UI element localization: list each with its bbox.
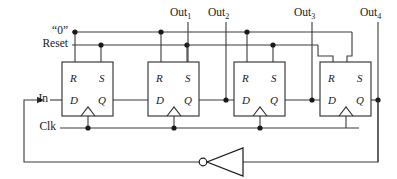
ff2-pin-label-q: Q: [184, 95, 192, 106]
ff1-pin-label-s: S: [99, 73, 105, 84]
output-label-out3-sub: 3: [311, 12, 315, 21]
junction-dot-reset-ff1: [98, 42, 103, 47]
output-label-out3-text: Out: [294, 6, 311, 18]
circuit-diagram: “0” Reset In Clk Out1 Out2 Out3 Out4 R S…: [0, 0, 397, 179]
ff2-pin-label-r: R: [156, 73, 163, 84]
ff4-pin-label-s: S: [357, 73, 363, 84]
output-label-out2-sub: 2: [225, 12, 229, 21]
junction-dot-clk-ff2: [171, 125, 176, 130]
ff3-pin-label-q: Q: [270, 95, 278, 106]
junction-dot-out2: [223, 97, 228, 102]
ff4-pin-label-r: R: [328, 73, 335, 84]
output-label-out4: Out4: [360, 7, 381, 21]
ff3-pin-label-r: R: [242, 73, 249, 84]
output-label-out1: Out1: [170, 7, 191, 21]
ff2-pin-label-d: D: [156, 95, 164, 106]
bus-label-reset: Reset: [14, 38, 68, 50]
output-label-out1-sub: 1: [187, 12, 191, 21]
ff1-pin-label-d: D: [70, 95, 78, 106]
wire-zero-to-ff4-s: [347, 32, 352, 62]
junction-dot-reset-ff2: [184, 42, 189, 47]
output-label-out1-text: Out: [170, 6, 187, 18]
ff4-pin-label-q: Q: [356, 95, 364, 106]
junction-dot-zero-ff1: [72, 29, 77, 34]
junction-dot-zero-ff3: [244, 29, 249, 34]
bus-label-zero: “0”: [14, 25, 68, 37]
junction-dot-clk-ff3: [257, 125, 262, 130]
junction-dot-reset-ff3: [270, 42, 275, 47]
ff1-pin-label-r: R: [70, 73, 77, 84]
output-label-out2: Out2: [208, 7, 229, 21]
wire-reset-to-ff4-r: [318, 45, 333, 62]
junction-dot-out3: [309, 97, 314, 102]
junction-dot-zero-ff2: [158, 29, 163, 34]
ff1-pin-label-q: Q: [98, 95, 106, 106]
ff3-pin-label-d: D: [242, 95, 250, 106]
output-label-out4-text: Out: [360, 6, 377, 18]
inverter-triangle: [207, 148, 243, 176]
output-label-out2-text: Out: [208, 6, 225, 18]
inverter-bubble-icon: [199, 158, 207, 166]
output-label-out3: Out3: [294, 7, 315, 21]
junction-dot-clk-ff1: [85, 125, 90, 130]
ff4-pin-label-d: D: [328, 95, 336, 106]
ff2-pin-label-s: S: [185, 73, 191, 84]
bus-label-in: In: [14, 93, 48, 105]
ff3-pin-label-s: S: [271, 73, 277, 84]
bus-label-clk: Clk: [14, 121, 56, 133]
output-label-out4-sub: 4: [377, 12, 381, 21]
